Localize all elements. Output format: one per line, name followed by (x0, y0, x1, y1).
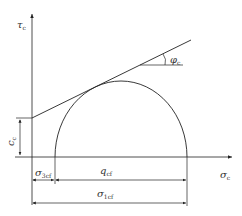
sigma-axis-label: σc (220, 169, 231, 181)
cohesion-label: cc (5, 136, 17, 146)
sigma1-label: σ1cf (97, 188, 114, 200)
mohr-circle-diagram: τc σc cc φc σ3cf qcf σ1cf (0, 0, 242, 216)
failure-envelope (32, 40, 191, 118)
tau-axis-label: τc (17, 19, 27, 31)
sigma3-label: σ3cf (35, 167, 52, 179)
mohr-circle (55, 81, 187, 157)
friction-angle-label: φc (170, 54, 181, 66)
deviator-label: qcf (100, 165, 113, 177)
angle-arc (163, 54, 166, 65)
